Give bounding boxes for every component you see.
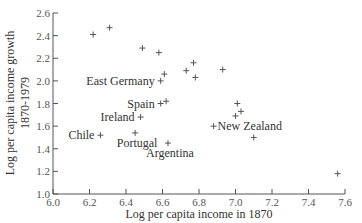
point-labels: East GermanySpainIrelandChilePortugalArg… [68,74,281,160]
x-tick-label: 7.6 [338,196,352,208]
point-label: Spain [127,97,154,111]
plus-marker-icon [139,45,145,51]
plus-marker-icon [220,67,226,73]
point-label: New Zealand [218,119,282,133]
plus-marker-icon [183,68,189,74]
plus-marker-icon [107,25,113,31]
y-tick-label: 1.8 [36,98,50,110]
x-tick-label: 7.4 [302,196,316,208]
y-axis-title: Log per capita income growth [3,31,17,176]
point-label: Argentina [146,146,194,160]
plus-marker-icon [90,31,96,37]
x-tick-label: 6.0 [46,196,60,208]
plus-marker-icon [163,98,169,104]
plus-marker-icon [335,171,341,177]
plus-marker-icon [158,78,164,84]
point-label: Ireland [101,110,135,124]
plus-marker-icon [97,132,103,138]
x-axis: 6.06.26.46.66.87.07.27.47.6 [46,189,352,208]
plus-marker-icon [158,101,164,107]
y-tick-label: 2.4 [36,30,50,42]
x-axis-title: Log per capita income in 1870 [126,207,273,221]
plus-marker-icon [156,50,162,56]
y-tick-label: 1.2 [36,165,50,177]
y-axis: 1.01.21.41.61.82.02.22.42.6 [36,7,58,200]
y-tick-label: 1.4 [36,143,50,155]
point-label: Chile [68,128,94,142]
scatter-chart: 1.01.21.41.61.82.02.22.42.6 6.06.26.46.6… [0,0,362,223]
y-tick-label: 2.6 [36,7,50,19]
plus-marker-icon [192,74,198,80]
y-axis-title-line-1: Log per capita income growth [3,31,17,176]
y-tick-label: 2.0 [36,75,50,87]
point-label: East Germany [86,74,154,88]
plus-marker-icon [191,60,197,66]
plus-marker-icon [161,71,167,77]
plus-marker-icon [234,101,240,107]
y-axis-title-line-2: 1870-1979 [18,77,32,129]
plus-marker-icon [138,114,144,120]
plus-marker-icon [238,108,244,114]
y-tick-label: 1.6 [36,120,50,132]
plus-marker-icon [251,134,257,140]
plus-marker-icon [211,123,217,129]
plus-marker-icon [233,113,239,119]
x-tick-label: 6.2 [83,196,97,208]
y-tick-label: 2.2 [36,52,50,64]
